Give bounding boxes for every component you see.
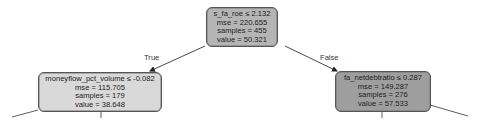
node-value: value = 50.321 <box>207 36 277 45</box>
tree-node-left: moneyflow_pct_volume ≤ -0.082 mse = 115.… <box>38 72 162 112</box>
tree-node-root: s_fa_roe ≤ 2.132 mse = 220.655 samples =… <box>206 7 278 47</box>
node-value: value = 38.648 <box>39 101 161 110</box>
decision-tree-diagram: s_fa_roe ≤ 2.132 mse = 220.655 samples =… <box>0 0 481 131</box>
edge-right-out-right <box>430 105 468 116</box>
edge-label-false: False <box>320 53 339 62</box>
edge-label-true: True <box>144 53 159 62</box>
tree-node-right: fa_netdebtratio ≤ 0.287 mse = 149.287 sa… <box>335 71 431 112</box>
node-value: value = 57.533 <box>336 100 430 109</box>
edge-left-out-left <box>12 110 38 117</box>
